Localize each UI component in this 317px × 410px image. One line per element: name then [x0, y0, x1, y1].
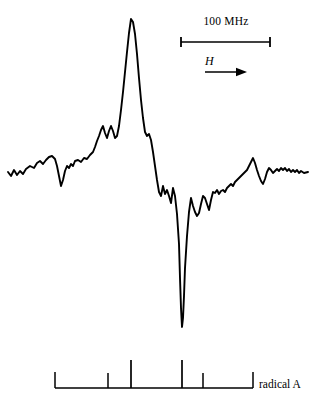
- field-arrow-head: [236, 68, 247, 76]
- spectrum-figure: 100 MHz H radical A: [0, 0, 317, 410]
- spectrum-canvas: [0, 0, 317, 410]
- scale-bar: [181, 37, 270, 47]
- spectrum-trace: [8, 19, 308, 327]
- field-direction-arrow: [205, 68, 247, 76]
- stick-tick-group: [55, 360, 253, 388]
- scale-bar-label: 100 MHz: [181, 15, 271, 27]
- field-symbol-label: H: [205, 54, 214, 69]
- radical-label: radical A: [259, 378, 301, 390]
- stick-diagram: [55, 360, 253, 388]
